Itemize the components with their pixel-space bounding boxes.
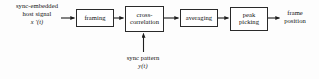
sync-pattern-label-line1: sync pattern [114,54,172,62]
output-label: frame position [275,9,315,25]
input-signal-math: x '(t) [8,18,66,25]
block-cross-correlation-label: cross- correlation [129,12,160,25]
block-framing-label: framing [83,15,106,22]
input-signal-label: sync-embedded host signal x '(t) [8,2,66,25]
block-cross-correlation: cross- correlation [125,6,164,32]
input-signal-label-line1: sync-embedded [8,2,66,10]
block-peak-picking: peak picking [230,7,268,31]
block-averaging-label-line1: averaging [186,14,212,21]
block-averaging-label: averaging [185,15,213,22]
block-averaging: averaging [180,9,218,27]
input-signal-label-line2: host signal [8,10,66,18]
output-label-line1: frame [275,9,315,17]
sync-pattern-math: y(t) [114,62,172,69]
block-cross-correlation-label-line2: correlation [130,19,159,26]
block-framing-label-line1: framing [84,14,105,21]
block-peak-picking-label: peak picking [238,12,260,25]
block-peak-picking-label-line2: picking [239,19,259,26]
block-diagram: sync-embedded host signal x '(t) framing… [0,0,319,79]
sync-pattern-label: sync pattern y(t) [114,54,172,69]
output-label-line2: position [275,17,315,25]
block-framing: framing [76,9,114,27]
